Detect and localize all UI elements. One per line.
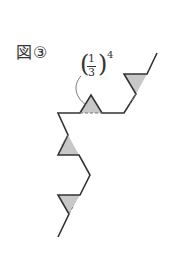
triangle-middle — [58, 135, 79, 155]
leader-line — [76, 76, 86, 105]
triangle-lower — [58, 195, 80, 214]
triangle-upper — [80, 95, 102, 113]
shaded-triangles — [58, 74, 147, 214]
triangle-top-right — [124, 74, 147, 94]
koch-curve-diagram — [0, 0, 173, 263]
